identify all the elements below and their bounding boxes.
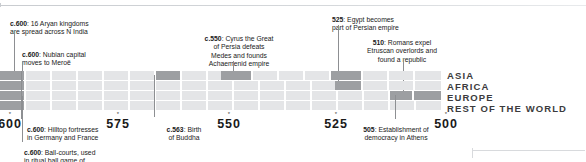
grid-cell[interactable]: [279, 71, 303, 80]
timeline-grid: [0, 71, 441, 112]
grid-cell[interactable]: [331, 71, 361, 80]
grid-cell[interactable]: [364, 91, 388, 100]
grid-cell[interactable]: [52, 91, 76, 100]
grid-cell[interactable]: [221, 71, 251, 80]
annotation-date: c.550: [205, 35, 222, 42]
grid-cell[interactable]: [415, 71, 441, 80]
grid-cell[interactable]: [156, 101, 180, 110]
grid-cell[interactable]: [208, 81, 232, 90]
grid-cell[interactable]: [52, 71, 76, 80]
annotation-athens-democracy: 505: Establishment of democracy in Athen…: [357, 118, 435, 143]
grid-cell[interactable]: [363, 71, 387, 80]
grid-cell[interactable]: [363, 81, 387, 90]
timeline-row-africa: [0, 81, 441, 90]
grid-cell[interactable]: [78, 71, 102, 80]
legend-item-africa: AFRICA: [447, 81, 490, 92]
annotation-text: : Egypt becomes part of Persian empire: [332, 16, 399, 31]
grid-cell[interactable]: [182, 91, 206, 100]
grid-cell[interactable]: [260, 101, 284, 110]
grid-cell[interactable]: [78, 101, 102, 110]
leader-line-birth-of-buddha: [154, 75, 155, 117]
grid-cell[interactable]: [390, 91, 412, 100]
continent-legend: ASIA AFRICA EUROPE REST OF THE WORLD: [447, 69, 586, 114]
grid-cell[interactable]: [104, 91, 128, 100]
grid-cell[interactable]: [130, 81, 154, 90]
grid-cell[interactable]: [130, 101, 154, 110]
grid-cell[interactable]: [234, 91, 258, 100]
grid-cell[interactable]: [130, 91, 154, 100]
grid-cell[interactable]: [286, 101, 310, 110]
grid-cell[interactable]: [234, 101, 258, 110]
grid-cell[interactable]: [335, 81, 361, 90]
grid-cell[interactable]: [78, 91, 102, 100]
grid-cell[interactable]: [182, 71, 206, 80]
grid-cell[interactable]: [52, 81, 76, 90]
annotation-egypt-persian-empire: 525: Egypt becomes part of Persian empir…: [332, 8, 444, 33]
grid-cell[interactable]: [52, 101, 76, 110]
grid-cell[interactable]: [389, 71, 413, 80]
leader-line-aryan-kingdoms: [14, 30, 15, 72]
legend-item-asia: ASIA: [447, 70, 474, 81]
grid-cell[interactable]: [26, 101, 50, 110]
grid-cell[interactable]: [389, 81, 413, 90]
grid-cell[interactable]: [305, 71, 329, 80]
grid-cell[interactable]: [253, 71, 277, 80]
grid-cell[interactable]: [208, 101, 232, 110]
grid-cell[interactable]: [26, 91, 50, 100]
grid-cell[interactable]: [260, 81, 284, 90]
annotation-date: c.563: [167, 126, 184, 133]
grid-cell[interactable]: [208, 91, 232, 100]
grid-cell[interactable]: [364, 101, 388, 110]
annotation-date: c.600: [22, 51, 39, 58]
annotation-ball-courts: c.600: Ball-courts, used in ritual ball …: [24, 141, 139, 162]
timeline-row-rest-of-the-world: [0, 101, 441, 110]
axis-year-label: 525: [324, 117, 348, 131]
annotation-date: 510: [373, 39, 384, 46]
grid-cell[interactable]: [130, 71, 154, 80]
grid-cell[interactable]: [414, 91, 441, 100]
annotation-date: 525: [332, 16, 343, 23]
timeline-row-europe: [0, 91, 441, 100]
timeline-page: c.600: 16 Aryan kingdoms are spread acro…: [0, 0, 586, 162]
axis-year-label: 500: [434, 117, 458, 131]
grid-cell[interactable]: [104, 71, 128, 80]
grid-cell[interactable]: [312, 101, 336, 110]
top-left-corner-tick: [0, 3, 1, 7]
grid-cell[interactable]: [26, 71, 50, 80]
grid-cell[interactable]: [260, 91, 284, 100]
grid-cell[interactable]: [156, 81, 180, 90]
decorative-frame-left: [472, 148, 473, 158]
grid-cell[interactable]: [182, 81, 206, 90]
grid-cell[interactable]: [390, 101, 414, 110]
grid-cell[interactable]: [78, 81, 102, 90]
grid-cell[interactable]: [312, 91, 336, 100]
grid-cell[interactable]: [104, 81, 128, 90]
grid-cell[interactable]: [182, 101, 206, 110]
annotation-nubian-capital: c.600: Nubian capital moves to Meroë: [22, 43, 132, 68]
grid-cell[interactable]: [338, 101, 362, 110]
annotation-date: c.600: [27, 126, 44, 133]
annotation-date: 505: [363, 126, 374, 133]
grid-cell[interactable]: [338, 91, 362, 100]
timeline-row-asia: [0, 71, 441, 80]
annotation-romans-expel-etruscans: 510: Romans expel Etruscan overlords and…: [344, 31, 460, 64]
annotation-hilltop-fortresses: c.600: Hilltop fortresses in Germany and…: [27, 118, 135, 143]
annotation-aryan-kingdoms: c.600: 16 Aryan kingdoms are spread acro…: [10, 12, 132, 37]
grid-cell[interactable]: [234, 81, 258, 90]
grid-cell[interactable]: [104, 101, 128, 110]
grid-cell[interactable]: [156, 91, 180, 100]
grid-cell[interactable]: [416, 101, 441, 110]
grid-cell[interactable]: [26, 81, 50, 90]
annotation-date: c.600: [24, 149, 41, 156]
grid-cell[interactable]: [312, 81, 336, 90]
decorative-frame-bottom: [472, 150, 585, 151]
top-divider: [0, 5, 586, 6]
grid-cell[interactable]: [286, 91, 310, 100]
annotation-cyrus-the-great: c.550: Cyrus the Great of Persia defeats…: [180, 27, 298, 68]
annotation-text: : Establishment of democracy in Athens: [364, 126, 428, 141]
axis-year-label: 600: [0, 117, 22, 131]
legend-item-europe: EUROPE: [447, 92, 494, 103]
grid-cell[interactable]: [156, 71, 180, 80]
grid-cell[interactable]: [286, 81, 310, 90]
grid-cell[interactable]: [415, 81, 441, 90]
